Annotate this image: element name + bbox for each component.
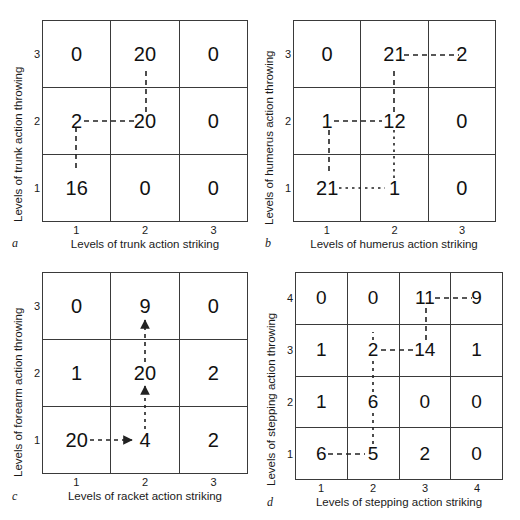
cell-d-r2c3: 0 — [399, 376, 451, 428]
y-tick: 4 — [281, 272, 293, 324]
panel-a-matrix: 0 20 0 2 20 0 16 0 0 — [42, 20, 248, 222]
table-row: 2 20 0 — [43, 88, 248, 155]
y-tick: 2 — [28, 87, 40, 154]
cell-b-r1c1: 21 — [294, 155, 361, 222]
panel-b: 0 21 2 1 12 0 21 1 0 — [258, 0, 520, 255]
panel-b-x-axis-title: Levels of humerus action striking — [288, 238, 500, 250]
cell-d-r4c2: 0 — [347, 273, 399, 325]
cell-c-r3c2: 9 — [111, 273, 179, 340]
panel-d-y-tick-labels: 1 2 3 4 — [281, 272, 293, 480]
cell-a-r2c2: 20 — [111, 88, 179, 155]
cell-value: 1 — [315, 339, 328, 361]
table-row: 0 21 2 — [294, 21, 496, 88]
panel-a-x-axis-title: Levels of trunk action striking — [42, 238, 248, 250]
y-tick: 1 — [28, 155, 40, 222]
cell-d-r1c1: 6 — [296, 428, 348, 480]
panel-b-y-axis-title: Levels of humerus action throwing — [263, 50, 275, 225]
cell-value: 0 — [207, 43, 220, 66]
cell-b-r3c3: 2 — [428, 21, 495, 88]
cell-value: 5 — [367, 443, 380, 465]
cell-value: 6 — [367, 391, 380, 413]
x-tick: 1 — [42, 476, 111, 488]
table-row: 20 4 2 — [43, 407, 248, 474]
panel-c-matrix: 0 9 0 1 20 2 20 4 2 — [42, 272, 248, 474]
x-tick: 2 — [111, 224, 180, 236]
cell-value: 2 — [419, 443, 432, 465]
cell-a-r2c3: 0 — [179, 88, 247, 155]
y-tick: 2 — [281, 376, 293, 428]
cell-d-r4c3: 11 — [399, 273, 451, 325]
table-row: 21 1 0 — [294, 155, 496, 222]
x-tick: 4 — [451, 482, 503, 494]
cell-value: 0 — [455, 177, 468, 200]
cell-c-r3c1: 0 — [43, 273, 111, 340]
cell-b-r1c2: 1 — [361, 155, 428, 222]
cell-c-r1c2: 4 — [111, 407, 179, 474]
y-tick: 2 — [279, 87, 291, 154]
cell-value: 2 — [455, 43, 468, 66]
table-row: 1 2 14 1 — [296, 324, 503, 376]
cell-a-r1c1: 16 — [43, 155, 111, 222]
panel-c-y-axis-title: Levels of forearm action throwing — [12, 308, 24, 477]
table-row: 1 12 0 — [294, 88, 496, 155]
panel-a: 0 20 0 2 20 0 16 0 0 — [0, 0, 260, 255]
cell-value: 20 — [133, 43, 157, 66]
cell-value: 9 — [138, 295, 151, 318]
cell-b-r2c2: 12 — [361, 88, 428, 155]
cell-value: 0 — [455, 110, 468, 133]
cell-b-r3c2: 21 — [361, 21, 428, 88]
x-tick: 1 — [42, 224, 111, 236]
panel-a-y-axis-title: Levels of trunk action throwing — [12, 67, 24, 222]
cell-d-r2c2: 6 — [347, 376, 399, 428]
y-tick: 1 — [28, 407, 40, 474]
x-tick: 1 — [293, 224, 361, 236]
panel-c-x-tick-labels: 1 2 3 — [42, 476, 248, 488]
cell-value: 9 — [470, 287, 483, 309]
y-tick: 1 — [281, 428, 293, 480]
panel-d-letter: d — [267, 495, 273, 510]
table-row: 6 5 2 0 — [296, 428, 503, 480]
x-tick: 3 — [179, 224, 248, 236]
cell-value: 2 — [207, 362, 220, 385]
cell-d-r4c1: 0 — [296, 273, 348, 325]
cell-c-r2c2: 20 — [111, 340, 179, 407]
cell-value: 14 — [413, 339, 436, 361]
x-tick: 3 — [399, 482, 451, 494]
cell-value: 1 — [70, 362, 83, 385]
cell-a-r2c1: 2 — [43, 88, 111, 155]
cell-value: 21 — [382, 43, 406, 66]
cell-value: 4 — [138, 429, 151, 452]
cell-value: 1 — [315, 391, 328, 413]
cell-a-r3c1: 0 — [43, 21, 111, 88]
cell-d-r3c1: 1 — [296, 324, 348, 376]
cell-d-r4c4: 9 — [451, 273, 503, 325]
panel-d-matrix: 0 0 11 9 1 2 14 1 1 6 0 0 — [295, 272, 503, 480]
panel-d-y-axis-title: Levels of stepping action throwing — [265, 313, 277, 486]
panel-c-y-tick-labels: 1 2 3 — [28, 272, 40, 474]
cell-value: 0 — [207, 110, 220, 133]
cell-d-r2c4: 0 — [451, 376, 503, 428]
x-tick: 2 — [361, 224, 429, 236]
table-row: 0 20 0 — [43, 21, 248, 88]
cell-value: 0 — [321, 43, 334, 66]
panel-a-x-tick-labels: 1 2 3 — [42, 224, 248, 236]
table-row: 0 0 11 9 — [296, 273, 503, 325]
cell-value: 2 — [207, 429, 220, 452]
cell-value: 0 — [367, 287, 380, 309]
y-tick: 2 — [28, 339, 40, 406]
cell-value: 0 — [419, 391, 432, 413]
cell-d-r1c4: 0 — [451, 428, 503, 480]
cell-value: 1 — [388, 177, 401, 200]
panel-d-x-axis-title: Levels of stepping action striking — [290, 496, 508, 508]
cell-value: 20 — [65, 429, 89, 452]
x-tick: 1 — [295, 482, 347, 494]
cell-value: 20 — [133, 362, 157, 385]
x-tick: 2 — [347, 482, 399, 494]
panel-c-x-axis-title: Levels of racket action striking — [40, 490, 250, 502]
y-tick: 3 — [279, 20, 291, 87]
cell-c-r1c1: 20 — [43, 407, 111, 474]
panel-a-letter: a — [12, 236, 18, 251]
panel-c: 0 9 0 1 20 2 20 4 2 — [0, 253, 260, 515]
cell-value: 0 — [70, 43, 83, 66]
x-tick: 3 — [428, 224, 496, 236]
